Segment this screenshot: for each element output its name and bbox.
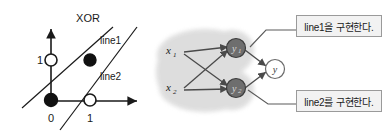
point-0-0 (45, 94, 58, 107)
hidden-node-y2-label: y (231, 83, 237, 94)
y-axis-tick-1: 1 (37, 54, 43, 66)
callout-box-line1: line1을 구현한다. (296, 15, 382, 37)
input-node-x1-label: x (165, 44, 171, 56)
plot-title: XOR (76, 12, 100, 24)
xor-network-figure: XOR line1 line2 1 0 1 (0, 0, 383, 136)
decision-line-2 (60, 27, 137, 130)
input-node-x2-label: x (165, 81, 171, 93)
input-node-x2-subscript: 2 (173, 88, 177, 96)
output-node-y: y (266, 60, 285, 79)
input-node-x1-subscript: 1 (173, 51, 177, 59)
callout-box-line2: line2를 구현한다. (296, 90, 382, 112)
point-1-0 (84, 94, 96, 106)
hidden-node-y1: y 1 (227, 39, 246, 58)
hidden-node-y1-label: y (231, 43, 237, 54)
point-0-1 (45, 54, 57, 66)
callout-1-leader (250, 30, 296, 47)
output-node-y-label: y (272, 64, 278, 75)
hidden-node-y1-subscript: 1 (238, 47, 242, 55)
x-axis-tick-1: 1 (87, 112, 93, 124)
hidden-node-y2-subscript: 2 (238, 87, 242, 95)
decision-line-2-label: line2 (100, 71, 122, 82)
callout-2-leader (248, 90, 296, 104)
xor-plot: XOR line1 line2 1 0 1 (22, 12, 137, 130)
point-1-1 (84, 54, 96, 66)
hidden-node-y2: y 2 (227, 79, 246, 98)
decision-line-1-label: line1 (100, 35, 122, 46)
origin-tick-0: 0 (48, 112, 54, 124)
network-diagram: x 1 x 2 y 1 y 2 y (156, 29, 296, 112)
